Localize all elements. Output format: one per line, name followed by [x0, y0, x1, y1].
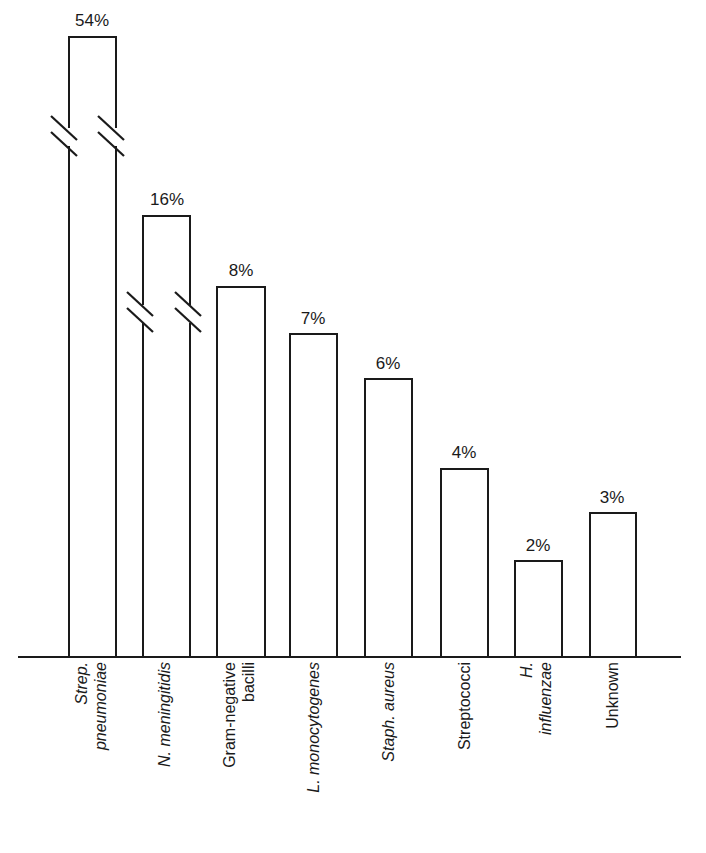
- category-label-unknown: Unknown: [603, 662, 663, 853]
- bar-chart: 54% 16% 8% 7% 6% 4% 2% 3% Strep. pneumon…: [0, 0, 706, 853]
- value-label: 54%: [52, 12, 132, 29]
- category-label-h-influenzae: H. influenzae: [517, 662, 577, 853]
- category-label-strep-pneumoniae: Strep. pneumoniae: [72, 662, 132, 853]
- value-label: 7%: [273, 310, 353, 327]
- category-label-l-monocytogenes: L. monocytogenes: [304, 662, 364, 853]
- value-label: 16%: [127, 191, 207, 208]
- category-label-n-meningitidis: N. meningitidis: [155, 662, 215, 853]
- value-label: 8%: [201, 262, 281, 279]
- value-label: 6%: [348, 355, 428, 372]
- category-label-streptococci: Streptococci: [455, 662, 515, 853]
- value-label: 2%: [498, 537, 578, 554]
- value-label: 4%: [424, 444, 504, 461]
- category-label-gram-negative-bacilli: Gram-negative bacilli: [220, 662, 280, 853]
- x-axis-line: [18, 656, 681, 658]
- value-label: 3%: [572, 489, 652, 506]
- category-label-staph-aureus: Staph. aureus: [379, 662, 439, 853]
